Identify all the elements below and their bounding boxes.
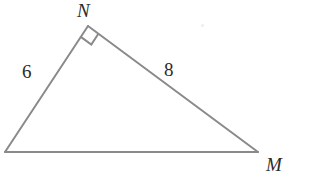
scan-artifact-speck: [201, 24, 204, 27]
right-angle-marker-icon: [81, 34, 99, 45]
side-length-label-left-leg: 6: [22, 62, 32, 81]
geometry-figure: N 6 8 M: [0, 0, 316, 172]
triangle-diagram: [0, 0, 316, 172]
triangle-side-right-leg: [88, 26, 258, 152]
triangle-side-left-leg: [5, 26, 88, 152]
side-length-label-right-leg: 8: [164, 60, 174, 79]
vertex-label-n: N: [77, 1, 90, 20]
vertex-label-m: M: [266, 155, 282, 172]
